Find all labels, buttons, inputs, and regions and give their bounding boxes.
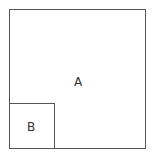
label-b: B	[27, 121, 35, 133]
label-a: A	[74, 76, 82, 88]
